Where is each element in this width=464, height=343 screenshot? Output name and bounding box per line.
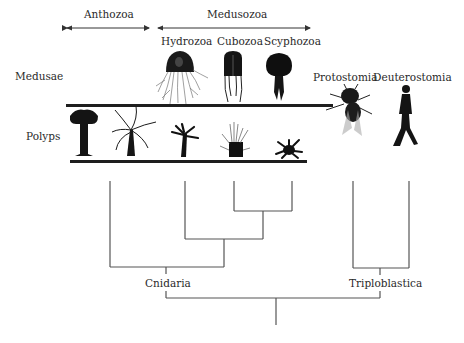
hydrozoan-medusa-icon (156, 51, 208, 104)
medusozoa-range-arrow (157, 26, 310, 31)
scyphozoan-polyp-icon (276, 140, 302, 158)
anthozoan-polyp-icon-1 (70, 110, 98, 156)
scyphozoan-medusa-icon (266, 53, 292, 101)
phylogeny-figure (0, 0, 464, 343)
human-deuterostomia-icon (393, 85, 418, 146)
anthozoan-polyp-icon-2 (112, 106, 156, 156)
fly-protostomia-icon (326, 84, 372, 136)
hydrozoan-polyp-icon (172, 124, 198, 157)
cubozoan-polyp-icon (220, 122, 250, 157)
cladogram-tree (110, 181, 409, 325)
cubozoan-medusa-icon (224, 51, 242, 102)
